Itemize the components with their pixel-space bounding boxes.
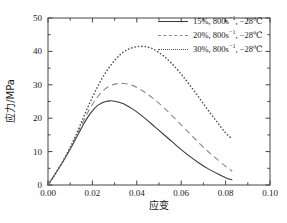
legend-item-label: 20%, 800s−1, −28℃ bbox=[193, 31, 263, 40]
x-tick-label: 0.02 bbox=[85, 189, 101, 198]
x-axis-title: 应变 bbox=[149, 200, 169, 211]
x-tick-label: 0.08 bbox=[218, 189, 234, 198]
chart-legend: 15%, 800s−1, −28℃20%, 800s−1, −28℃30%, 8… bbox=[158, 16, 263, 55]
y-axis-title: 应力/MPa bbox=[5, 71, 16, 131]
stress-strain-chart: 01020304050 0.000.020.040.060.080.10 应力/… bbox=[0, 0, 287, 223]
x-tick-label: 0.06 bbox=[173, 189, 189, 198]
x-tick-label: 0.04 bbox=[129, 189, 145, 198]
y-tick-label: 0 bbox=[10, 181, 42, 190]
series-line-2 bbox=[48, 46, 232, 185]
y-tick-label: 50 bbox=[10, 14, 42, 23]
legend-line-icon bbox=[158, 17, 188, 26]
legend-item-label: 30%, 800s−1, −28℃ bbox=[193, 45, 263, 54]
x-tick-label: 0.00 bbox=[40, 189, 56, 198]
legend-item-2: 30%, 800s−1, −28℃ bbox=[158, 44, 263, 55]
legend-line-icon bbox=[158, 31, 188, 40]
legend-item-1: 20%, 800s−1, −28℃ bbox=[158, 30, 263, 41]
y-tick-label: 40 bbox=[10, 47, 42, 56]
x-tick-label: 0.10 bbox=[262, 189, 278, 198]
y-tick-label: 10 bbox=[10, 147, 42, 156]
legend-item-0: 15%, 800s−1, −28℃ bbox=[158, 16, 263, 27]
legend-line-icon bbox=[158, 45, 188, 54]
series-line-0 bbox=[48, 101, 232, 185]
legend-item-label: 15%, 800s−1, −28℃ bbox=[193, 17, 263, 26]
data-series bbox=[48, 46, 232, 185]
